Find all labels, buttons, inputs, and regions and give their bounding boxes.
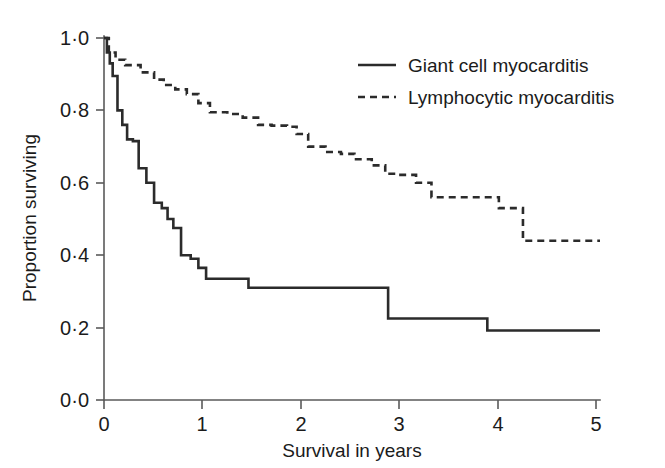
y-tick-label-0-4: 0·4 bbox=[60, 244, 89, 266]
x-axis-title: Survival in years bbox=[282, 440, 421, 461]
x-tick-label-3: 3 bbox=[393, 413, 404, 435]
x-tick-label-1: 1 bbox=[196, 413, 207, 435]
y-tick-label-0-0: 0·0 bbox=[60, 389, 89, 411]
legend-label-giant-cell: Giant cell myocarditis bbox=[408, 55, 589, 76]
y-tick-label-0-2: 0·2 bbox=[60, 317, 89, 339]
y-tick-label-1-0: 1·0 bbox=[60, 27, 89, 49]
x-tick-label-5: 5 bbox=[590, 413, 601, 435]
y-axis-ticks bbox=[96, 38, 104, 400]
x-tick-label-0: 0 bbox=[98, 413, 109, 435]
x-tick-label-2: 2 bbox=[295, 413, 306, 435]
survival-chart-figure: 1·0 0·8 0·6 0·4 0·2 0·0 0 1 2 3 4 5 Surv… bbox=[0, 0, 665, 468]
y-tick-label-0-6: 0·6 bbox=[60, 172, 89, 194]
legend-label-lymphocytic: Lymphocytic myocarditis bbox=[408, 87, 614, 108]
chart-canvas: 1·0 0·8 0·6 0·4 0·2 0·0 0 1 2 3 4 5 Surv… bbox=[0, 0, 665, 468]
x-axis-ticks bbox=[104, 400, 596, 409]
x-tick-label-4: 4 bbox=[492, 413, 503, 435]
series-group bbox=[104, 38, 600, 331]
series-giant-cell-myocarditis bbox=[104, 38, 600, 331]
chart-legend: Giant cell myocarditis Lymphocytic myoca… bbox=[358, 55, 614, 108]
y-tick-label-0-8: 0·8 bbox=[60, 99, 89, 121]
y-axis-title: Proportion surviving bbox=[19, 134, 40, 302]
